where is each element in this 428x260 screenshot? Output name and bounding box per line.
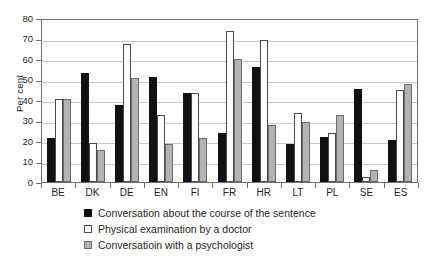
bar-fr-series1	[226, 31, 234, 182]
bar-es-series1	[396, 90, 404, 182]
bar-group-pl	[315, 20, 349, 182]
x-axis-label-de: DE	[110, 187, 144, 203]
x-tick-mark	[418, 183, 419, 188]
x-axis-labels: BEDKDEENFIFRHRLTPLSEES	[41, 187, 418, 203]
bar-es-series0	[388, 140, 396, 182]
bar-fi-series2	[199, 138, 207, 182]
bar-de-series2	[131, 78, 139, 182]
bar-se-series2	[370, 170, 378, 182]
bar-lt-series1	[294, 113, 302, 182]
bar-fi-series1	[191, 93, 199, 182]
bar-be-series1	[55, 99, 63, 182]
legend-swatch-icon	[84, 209, 92, 217]
bar-hr-series0	[252, 67, 260, 182]
plot-area	[41, 19, 418, 183]
bar-hr-series2	[268, 125, 276, 182]
x-axis-label-fi: FI	[178, 187, 212, 203]
bar-dk-series1	[89, 143, 97, 182]
bar-pl-series1	[328, 133, 336, 182]
x-axis-label-dk: DK	[75, 187, 109, 203]
bar-fr-series0	[218, 133, 226, 182]
legend-item: Physical examination by a doctor	[84, 221, 414, 237]
bar-dk-series0	[81, 73, 89, 182]
y-tick-label: 60	[22, 54, 33, 65]
y-tick-label: 20	[22, 136, 33, 147]
bar-be-series0	[47, 138, 55, 182]
bar-group-fi	[178, 20, 212, 182]
bar-lt-series2	[302, 122, 310, 182]
bar-de-series1	[123, 44, 131, 182]
x-axis-label-en: EN	[144, 187, 178, 203]
bar-dk-series2	[97, 150, 105, 182]
bar-group-en	[144, 20, 178, 182]
bar-chart-figure: Per cent 01020304050607080 BEDKDEENFIFRH…	[0, 0, 428, 260]
x-axis-label-fr: FR	[212, 187, 246, 203]
bar-fr-series2	[234, 59, 242, 182]
bar-group-se	[349, 20, 383, 182]
bar-group-hr	[247, 20, 281, 182]
bar-en-series1	[157, 115, 165, 182]
bar-en-series0	[149, 77, 157, 182]
bar-se-series1	[362, 177, 370, 182]
y-tick-label: 80	[22, 13, 33, 24]
legend-label: Conversation about the course of the sen…	[98, 207, 316, 219]
bar-se-series0	[354, 89, 362, 182]
bar-en-series2	[165, 144, 173, 182]
legend-item: Conversatioin with a psychologist	[84, 237, 414, 253]
bar-group-fr	[212, 20, 246, 182]
legend-item: Conversation about the course of the sen…	[84, 205, 414, 221]
bar-group-be	[42, 20, 76, 182]
bar-pl-series0	[320, 137, 328, 182]
legend-label: Conversatioin with a psychologist	[98, 239, 253, 251]
legend-label: Physical examination by a doctor	[98, 223, 252, 235]
x-axis-label-es: ES	[384, 187, 418, 203]
x-axis-label-pl: PL	[315, 187, 349, 203]
x-axis-label-hr: HR	[247, 187, 281, 203]
bar-es-series2	[404, 84, 412, 182]
chart-legend: Conversation about the course of the sen…	[84, 205, 414, 253]
y-tick-label: 10	[22, 156, 33, 167]
y-tick-label: 0	[28, 177, 33, 188]
bar-group-de	[110, 20, 144, 182]
bar-fi-series0	[183, 93, 191, 182]
y-tick-label: 50	[22, 74, 33, 85]
bar-pl-series2	[336, 115, 344, 182]
bar-group-es	[383, 20, 417, 182]
y-tick-label: 40	[22, 95, 33, 106]
x-axis-label-be: BE	[41, 187, 75, 203]
bar-groups	[42, 20, 417, 182]
y-tick-label: 70	[22, 33, 33, 44]
bar-be-series2	[63, 99, 71, 182]
bar-group-lt	[281, 20, 315, 182]
bar-group-dk	[76, 20, 110, 182]
y-tick-label: 30	[22, 115, 33, 126]
x-axis-label-lt: LT	[281, 187, 315, 203]
bar-de-series0	[115, 105, 123, 182]
bar-lt-series0	[286, 144, 294, 182]
legend-swatch-icon	[84, 225, 92, 233]
legend-swatch-icon	[84, 241, 92, 249]
bar-hr-series1	[260, 40, 268, 182]
y-axis-ticks: 01020304050607080	[0, 0, 41, 184]
x-axis-label-se: SE	[349, 187, 383, 203]
